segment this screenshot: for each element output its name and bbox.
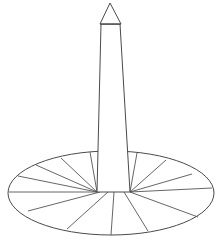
monument-drawing <box>0 0 222 242</box>
pyramidion-cap <box>100 3 121 24</box>
obelisk-shaft <box>97 24 130 192</box>
figure-canvas: Washington Monument line drawing Obelisk… <box>0 0 222 242</box>
